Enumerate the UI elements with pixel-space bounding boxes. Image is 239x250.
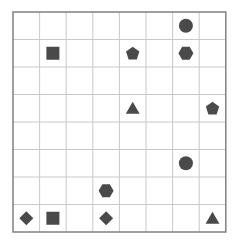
square-icon — [46, 212, 59, 225]
triangle-icon — [206, 212, 220, 224]
circle-icon — [179, 19, 193, 33]
grid-lines — [13, 12, 226, 232]
hexagon-icon — [99, 184, 114, 197]
diamond-icon — [99, 211, 113, 225]
shape-grid-diagram — [0, 0, 239, 250]
pentagon-icon — [206, 102, 219, 115]
pentagon-icon — [126, 47, 139, 60]
square-icon — [46, 47, 59, 60]
hexagon-icon — [178, 47, 193, 60]
triangle-icon — [126, 102, 140, 114]
circle-icon — [179, 156, 193, 170]
diamond-icon — [19, 211, 33, 225]
